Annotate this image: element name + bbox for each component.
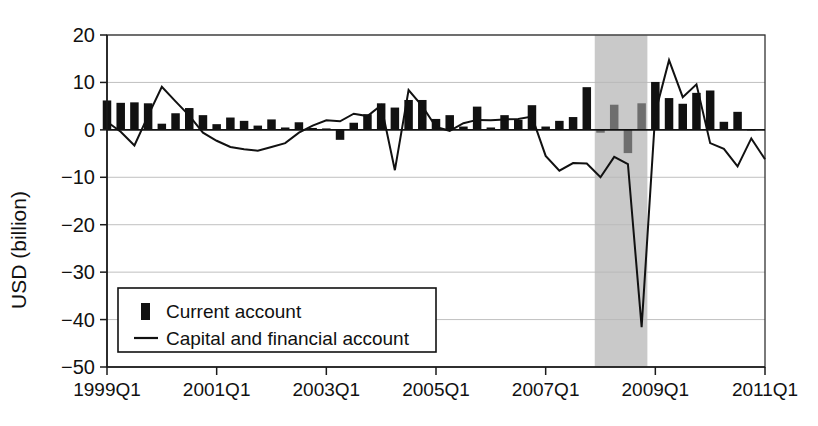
legend-label-capital-financial-account: Capital and financial account [166, 328, 410, 349]
bar-2005Q2 [445, 115, 453, 130]
bar-2004Q2 [391, 108, 399, 130]
recession-band [595, 35, 648, 367]
y-tick-label--10: −10 [61, 166, 95, 188]
bar-2004Q4 [418, 100, 426, 130]
x-tick-label-2005Q1: 2005Q1 [402, 379, 470, 400]
y-tick-label-10: 10 [73, 71, 95, 93]
bar-2008Q3 [624, 130, 632, 153]
bar-2002Q1 [267, 119, 275, 129]
bar-1999Q3 [130, 102, 138, 130]
recession-shading [595, 35, 648, 367]
bar-2001Q2 [226, 118, 234, 130]
bar-2000Q2 [171, 113, 179, 130]
x-axis-ticks: 1999Q12001Q12003Q12005Q12007Q12009Q12011… [73, 367, 798, 400]
y-tick-label--20: −20 [61, 214, 95, 236]
current-account-chart: 20100−10−20−30−40−50 1999Q12001Q12003Q12… [0, 0, 818, 426]
bar-2007Q4 [583, 87, 591, 130]
bar-2005Q4 [473, 107, 481, 130]
x-tick-label-2001Q1: 2001Q1 [183, 379, 251, 400]
y-tick-label--30: −30 [61, 261, 95, 283]
bar-2001Q1 [212, 124, 220, 130]
x-tick-label-2003Q1: 2003Q1 [293, 379, 361, 400]
bar-2008Q2 [610, 105, 618, 130]
y-tick-label-20: 20 [73, 24, 95, 46]
legend-label-current-account: Current account [166, 301, 302, 322]
bar-2006Q3 [514, 120, 522, 130]
y-tick-label--40: −40 [61, 309, 95, 331]
bar-2000Q1 [158, 124, 166, 130]
chart-figure: 20100−10−20−30−40−50 1999Q12001Q12003Q12… [0, 0, 818, 426]
bar-2003Q2 [336, 130, 344, 140]
bar-2010Q2 [720, 122, 728, 130]
bar-2001Q3 [240, 121, 248, 130]
bar-2003Q3 [350, 123, 358, 130]
y-tick-label-0: 0 [84, 119, 95, 141]
bar-2002Q3 [295, 122, 303, 130]
legend-bar-marker-icon [141, 303, 150, 320]
bar-2007Q2 [555, 121, 563, 130]
bar-2009Q2 [665, 98, 673, 130]
y-tick-label--50: −50 [61, 356, 95, 378]
bar-2009Q3 [679, 104, 687, 130]
bar-2006Q2 [500, 115, 508, 130]
x-tick-label-1999Q1: 1999Q1 [73, 379, 141, 400]
bar-2010Q1 [706, 90, 714, 129]
x-tick-label-2007Q1: 2007Q1 [512, 379, 580, 400]
bar-1999Q2 [116, 103, 124, 130]
chart-legend: Current account Capital and financial ac… [118, 288, 436, 352]
bar-2007Q3 [569, 117, 577, 130]
y-axis-ticks: 20100−10−20−30−40−50 [61, 24, 107, 378]
x-tick-label-2011Q1: 2011Q1 [732, 379, 798, 400]
bar-2010Q3 [733, 112, 741, 130]
y-axis-title: USD (billion) [7, 191, 30, 309]
bar-2008Q4 [637, 103, 645, 130]
x-tick-label-2009Q1: 2009Q1 [622, 379, 690, 400]
